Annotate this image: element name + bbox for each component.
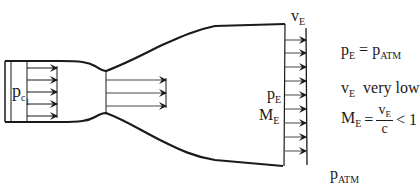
label-exit-pressure: pE [267, 86, 281, 105]
exit-flow-arrows [285, 40, 306, 151]
throat-flow-arrows [106, 80, 166, 106]
chamber-flow-arrows [27, 68, 57, 116]
label-exit-mach: ME [259, 107, 279, 126]
equation-velocity-note: vE very low [341, 80, 420, 99]
exit-arrow-tip-line [306, 28, 307, 165]
label-exit-velocity: vE [291, 8, 305, 27]
nozzle-upper-wall [5, 24, 285, 71]
mach-fraction: vE c [376, 103, 393, 136]
nozzle-diagram: pc1 vE pE ME pATM pE = pATM vE very low … [0, 0, 420, 188]
nozzle-lower-wall [5, 113, 283, 166]
label-ambient-pressure: pATM [330, 166, 359, 185]
exit-station-line [284, 24, 285, 166]
label-chamber-pressure: pc1 [12, 82, 29, 107]
equation-mach: ME = vE c < 1 [341, 103, 417, 136]
equation-pressure-match: pE = pATM [341, 42, 401, 61]
